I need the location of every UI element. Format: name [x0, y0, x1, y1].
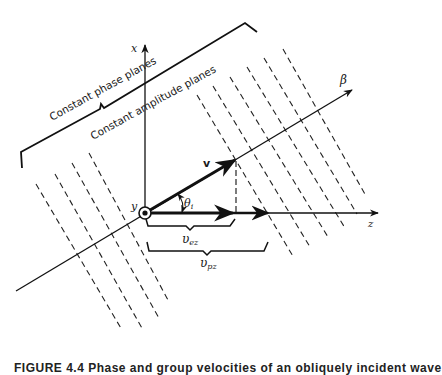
- constant-amplitude-planes: [36, 153, 168, 330]
- figure-caption: FIGURE 4.4 Phase and group velocities of…: [14, 361, 394, 375]
- v-pz-brace: [147, 242, 268, 255]
- x-axis-label: x: [131, 42, 138, 55]
- y-axis-label: y: [130, 200, 138, 213]
- beta-label: β: [339, 73, 347, 87]
- velocity-label: v: [203, 157, 211, 170]
- theta-label: θi: [184, 197, 194, 211]
- v-ez-label: υez: [182, 232, 199, 247]
- theta-arc: [178, 194, 183, 212]
- z-axis-label: z: [367, 218, 374, 229]
- constant-amplitude-label: Constant amplitude planes: [88, 63, 218, 142]
- v-pz-label: υpz: [200, 256, 217, 271]
- v-ez-brace: [146, 219, 235, 230]
- constant-phase-bracket: [21, 23, 257, 168]
